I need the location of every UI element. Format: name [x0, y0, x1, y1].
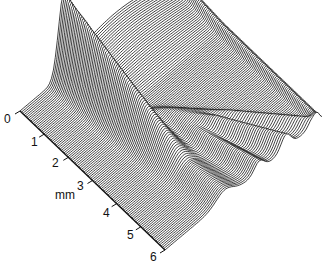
axis-tick: [15, 111, 20, 114]
tick-label-3: 3: [77, 180, 84, 192]
waterfall-plot: [0, 0, 329, 266]
tick-label-5: 5: [127, 229, 134, 241]
axis-unit-label: mm: [55, 189, 75, 201]
axis-tick: [39, 134, 44, 137]
axis-tick: [160, 250, 165, 253]
axis-tick: [136, 227, 141, 230]
profile-lines: [20, 0, 322, 250]
tick-label-2: 2: [52, 157, 59, 169]
axis-tick: [112, 204, 117, 207]
axis-tick: [63, 157, 68, 160]
tick-label-1: 1: [31, 136, 38, 148]
axis-tick: [88, 181, 93, 184]
tick-label-0: 0: [4, 113, 11, 125]
tick-label-4: 4: [103, 207, 110, 219]
tick-label-6: 6: [150, 251, 157, 263]
